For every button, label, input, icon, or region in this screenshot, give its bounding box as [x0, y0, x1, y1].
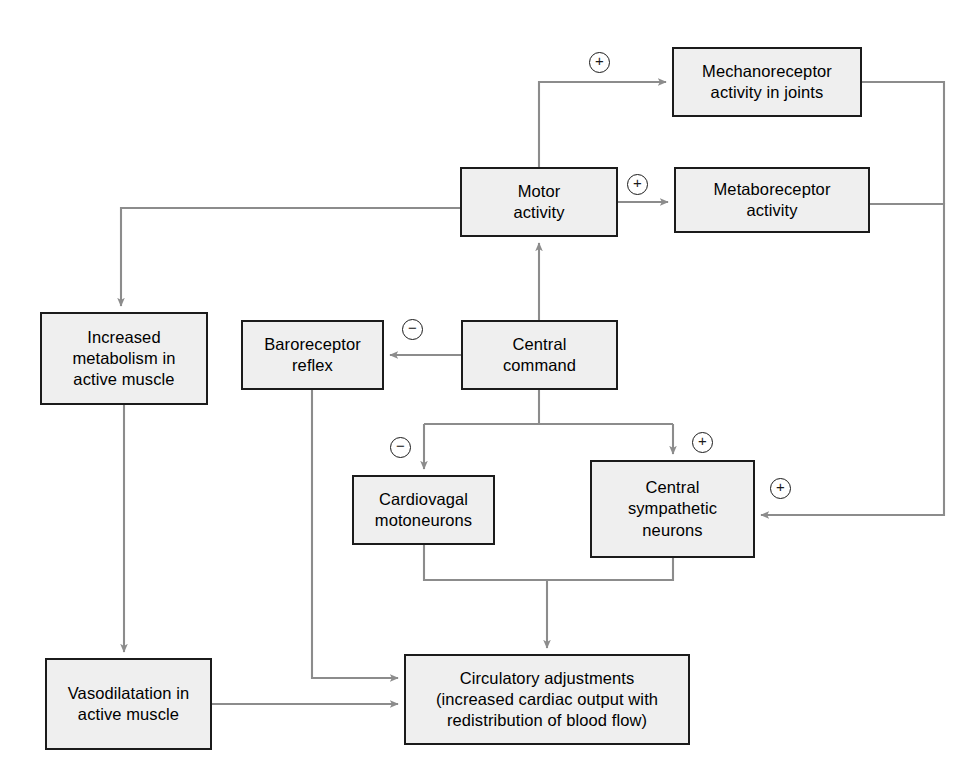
sign-plus-motor-to-metaboreceptor-icon: + [627, 174, 648, 195]
sign-symbol: + [590, 52, 609, 70]
edge-receptors-to-sympathetic [761, 204, 944, 515]
node-increased-metabolism[interactable]: Increased metabolism in active muscle [40, 312, 208, 405]
node-central-command[interactable]: Central command [461, 320, 618, 390]
sign-symbol: + [628, 174, 647, 192]
node-central-sympathetic-neurons-label: Central sympathetic neurons [592, 477, 753, 540]
node-baroreceptor-reflex-label: Baroreceptor reflex [243, 334, 382, 376]
sign-symbol: + [693, 432, 712, 450]
node-mechanoreceptor-label: Mechanoreceptor activity in joints [674, 61, 860, 103]
sign-symbol: − [391, 437, 410, 455]
sign-symbol: + [771, 478, 790, 496]
node-vasodilatation-label: Vasodilatation in active muscle [47, 683, 210, 725]
node-metaboreceptor-label: Metaboreceptor activity [676, 179, 868, 221]
sign-plus-motor-to-mechanoreceptor-icon: + [589, 52, 610, 73]
flow-diagram: Mechanoreceptor activity in joints Metab… [0, 0, 972, 784]
node-increased-metabolism-label: Increased metabolism in active muscle [42, 327, 206, 390]
sign-symbol: − [403, 319, 422, 337]
edge-mechanoreceptor-to-right-bus [862, 82, 944, 204]
node-circulatory-adjustments[interactable]: Circulatory adjustments (increased cardi… [404, 654, 690, 745]
node-metaboreceptor[interactable]: Metaboreceptor activity [674, 167, 870, 233]
node-cardiovagal-motoneurons-label: Cardiovagal motoneurons [354, 489, 493, 531]
edge-motor-to-increased-metabolism [121, 208, 460, 306]
node-cardiovagal-motoneurons[interactable]: Cardiovagal motoneurons [352, 475, 495, 545]
node-circulatory-adjustments-label: Circulatory adjustments (increased cardi… [406, 668, 688, 731]
sign-minus-central-command-to-cardiovagal-icon: − [390, 437, 411, 458]
sign-plus-central-command-to-sympathetic-icon: + [692, 432, 713, 453]
sign-minus-central-command-to-baroreceptor-icon: − [402, 319, 423, 340]
sign-plus-receptors-to-sympathetic-icon: + [770, 478, 791, 499]
node-central-sympathetic-neurons[interactable]: Central sympathetic neurons [590, 460, 755, 558]
node-vasodilatation[interactable]: Vasodilatation in active muscle [45, 658, 212, 750]
node-mechanoreceptor[interactable]: Mechanoreceptor activity in joints [672, 47, 862, 117]
node-motor-activity[interactable]: Motor activity [460, 167, 618, 237]
node-central-command-label: Central command [463, 334, 616, 376]
node-baroreceptor-reflex[interactable]: Baroreceptor reflex [241, 320, 384, 390]
edge-motor-to-mechanoreceptor [539, 82, 666, 167]
node-motor-activity-label: Motor activity [462, 181, 616, 223]
